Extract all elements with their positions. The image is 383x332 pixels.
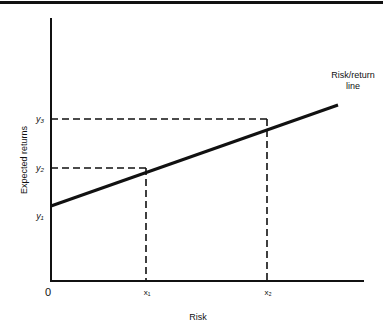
top-border xyxy=(0,1,383,4)
y2-label: y₂ xyxy=(35,163,45,173)
line-label-1: Risk/return xyxy=(331,70,375,80)
y1-label: y₁ xyxy=(35,211,44,221)
x2-label: x₂ xyxy=(264,288,271,297)
y3-label: y₃ xyxy=(35,114,45,124)
y-axis-title: Expected returns xyxy=(19,125,29,194)
origin-label: 0 xyxy=(45,286,51,298)
risk-return-line xyxy=(51,105,338,206)
x-axis-title: Risk xyxy=(189,312,207,322)
x1-label: x₁ xyxy=(144,288,151,297)
line-label-2: line xyxy=(346,81,360,91)
risk-return-diagram: Risk/return line y₃ y₂ y₁ 0 x₁ x₂ Risk E… xyxy=(0,0,383,332)
